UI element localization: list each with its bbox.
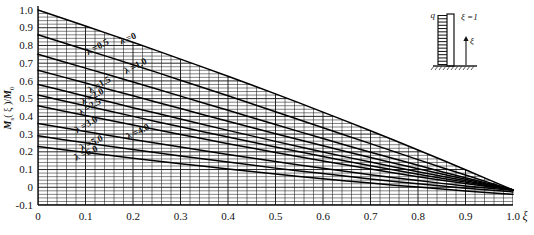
x-tick-label: 0.7 [364,210,378,222]
chart-gridlines [38,6,513,205]
y-tick-label: 0.7 [19,57,33,69]
inset-diagram: qξ =1ξ [431,10,478,70]
x-tick-label: 0.8 [411,210,425,222]
y-tick-label: 0.6 [19,75,33,87]
y-axis-label: Ms( ξ )/M0 [2,86,16,130]
x-tick-label: 0.2 [126,210,140,222]
curve-labels: λ =0λ =0.5λ =1.0λ =1.5λ =2.0λ =2.5λ =3.0… [73,30,151,162]
y-tick-label: 0.5 [19,92,33,104]
chart-svg: 00.10.20.30.40.50.60.70.80.91.0ξ1.00.90.… [0,0,534,235]
x-tick-label: 0.5 [269,210,283,222]
y-tick-label: 0.8 [19,39,33,51]
y-tick-label: 0.4 [19,110,33,122]
x-tick-label: 0.3 [174,210,188,222]
svg-text:Ms( ξ )/M0: Ms( ξ )/M0 [2,86,16,130]
x-tick-label: 0.1 [79,210,93,222]
inset-arrow-head [463,36,468,41]
y-tick-label: 0.3 [19,128,33,140]
x-tick-label: 1.0 [506,210,520,222]
y-tick-label: 0.2 [19,145,33,157]
y-tick-label: -0.1 [16,199,33,211]
y-tick-label: 1.0 [19,4,33,16]
y-tick-label: 0.9 [19,21,33,33]
curve-label-2: λ =1.0 [122,56,148,76]
figure-container: 00.10.20.30.40.50.60.70.80.91.0ξ1.00.90.… [0,0,534,235]
y-tick-labels: 1.00.90.80.70.60.50.40.30.20.10-0.1 [16,4,34,211]
inset-load-label: q [431,10,436,20]
x-axis-label: ξ [522,209,528,223]
curve-label-0: λ =0 [118,30,138,46]
x-tick-label: 0.4 [221,210,235,222]
x-tick-labels: 00.10.20.30.40.50.60.70.80.91.0 [35,210,520,222]
inset-top-label: ξ =1 [461,12,478,22]
y-tick-label: 0 [28,181,34,193]
x-tick-label: 0 [35,210,41,222]
inset-axis-label: ξ [470,36,474,46]
figure-caption [0,225,534,235]
y-tick-label: 0.1 [19,163,33,175]
inset-wall [447,14,454,66]
x-tick-label: 0.9 [459,210,473,222]
x-tick-label: 0.6 [316,210,330,222]
